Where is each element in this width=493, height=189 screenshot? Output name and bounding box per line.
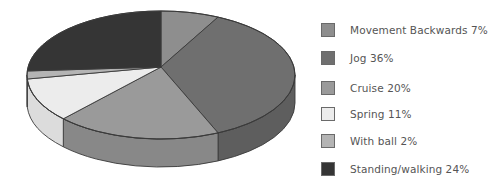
legend-label: Movement Backwards 7% [350, 24, 488, 36]
pie-chart [0, 0, 310, 189]
legend-item-movement-backwards: Movement Backwards 7% [321, 22, 488, 38]
legend-item-cruise: Cruise 20% [321, 80, 411, 96]
legend-swatch [321, 162, 335, 176]
legend-label: Standing/walking 24% [350, 163, 469, 175]
legend-item-jog: Jog 36% [321, 50, 394, 66]
legend-swatch [321, 134, 335, 148]
legend-item-with-ball: With ball 2% [321, 133, 417, 149]
legend-item-spring: Spring 11% [321, 106, 412, 122]
legend-swatch [321, 81, 335, 95]
legend-swatch [321, 23, 335, 37]
legend-swatch [321, 107, 335, 121]
legend-swatch [321, 51, 335, 65]
legend-item-standing-walking: Standing/walking 24% [321, 161, 469, 177]
legend-label: With ball 2% [350, 135, 417, 147]
legend-label: Cruise 20% [350, 82, 411, 94]
legend-label: Spring 11% [350, 108, 412, 120]
legend-label: Jog 36% [350, 52, 394, 64]
